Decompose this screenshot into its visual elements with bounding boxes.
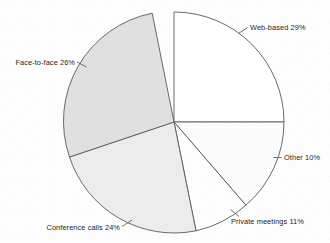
leader-line-web-based xyxy=(239,28,248,34)
slice-label-conference-calls: Conference calls 24% xyxy=(47,223,121,232)
pie-chart-svg: Web-based 29% Other 10% Private meetings… xyxy=(0,0,330,243)
pie-slices-group xyxy=(63,12,284,233)
pie-chart-figure: Web-based 29% Other 10% Private meetings… xyxy=(0,0,330,243)
slice-label-web-based: Web-based 29% xyxy=(250,23,306,32)
slice-label-other: Other 10% xyxy=(284,153,320,162)
slice-label-face-to-face: Face-to-face 26% xyxy=(15,58,75,67)
slice-label-private-meetings: Private meetings 11% xyxy=(231,217,304,226)
